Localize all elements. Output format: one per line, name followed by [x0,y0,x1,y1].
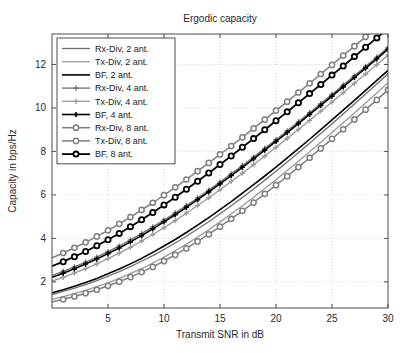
series-marker-circle [184,246,189,251]
y-tick-label: 4 [40,233,46,244]
series-marker-circle [72,245,77,250]
series-marker-circle [363,107,368,112]
series-marker-circle [318,82,323,87]
series-marker-circle [240,208,245,213]
series-marker-circle [273,118,278,123]
series-marker-circle [296,164,301,169]
series-marker-circle [128,224,133,229]
series-marker-circle [105,283,110,288]
legend-label: Rx-Div, 4 ant. [95,83,149,93]
series-marker-circle [240,145,245,150]
series-marker-circle [217,162,222,167]
series-marker-circle [161,193,166,198]
series-marker-circle [296,100,301,105]
series-marker-circle [117,279,122,284]
series-marker-circle [352,54,357,59]
series-marker-circle [83,240,88,245]
legend-label: Rx-Div, 2 ant. [95,44,149,54]
series-marker-circle [161,202,166,207]
x-tick-label: 5 [105,313,111,324]
series-marker-circle [173,195,178,200]
legend-label: Tx-Div, 2 ant. [95,57,148,67]
series-marker-circle [83,291,88,296]
series-marker-circle [318,146,323,151]
series-marker-circle [329,62,334,67]
series-marker-circle [273,108,278,113]
y-tick-label: 2 [40,276,46,287]
series-marker-circle [206,170,211,175]
series-marker-circle [329,136,334,141]
series-marker-circle [385,26,390,31]
series-marker-circle [117,221,122,226]
legend-label: BF, 2 ant. [95,70,133,80]
series-marker-circle [285,174,290,179]
series-marker-circle [229,143,234,148]
series-marker-circle [128,215,133,220]
series-marker-circle [217,224,222,229]
series-marker-circle [374,35,379,40]
x-tick-label: 15 [214,313,226,324]
series-marker-circle [329,73,334,78]
series-marker-circle [262,127,267,132]
series-marker-circle [229,216,234,221]
series-marker-circle [374,97,379,102]
legend-label: Tx-Div, 8 ant. [95,136,148,146]
series-marker-circle [240,135,245,140]
series-marker-circle [251,136,256,141]
series-marker-circle [139,207,144,212]
series-marker-circle [341,53,346,58]
series-marker-circle [173,252,178,257]
series-marker-circle [150,210,155,215]
legend-label: Tx-Div, 4 ant. [95,97,148,107]
x-tick-label: 20 [270,313,282,324]
legend-label: Rx-Div, 8 ant. [95,123,149,133]
series-marker-circle [352,44,357,49]
series-marker-circle [105,237,110,242]
series-marker-circle [94,243,99,248]
legend-marker-circle-icon [73,125,78,130]
series-marker-circle [83,249,88,254]
series-marker-circle [195,239,200,244]
legend-label: BF, 4 ant. [95,110,133,120]
series-marker-circle [341,63,346,68]
series-marker-circle [352,117,357,122]
series-marker-circle [285,109,290,114]
legend-label: BF, 8 ant. [95,149,133,159]
series-marker-circle [206,160,211,165]
series-marker-circle [72,254,77,259]
y-axis-label: Capacity in bps/Hz [7,129,18,212]
series-marker-circle [273,183,278,188]
chart-figure: 5101520253024681012Ergodic capacityTrans… [0,0,411,353]
x-tick-label: 30 [382,313,394,324]
series-marker-circle [363,45,368,50]
series-marker-circle [150,264,155,269]
series-marker-circle [195,179,200,184]
series-marker-circle [374,25,379,30]
series-marker-circle [94,287,99,292]
series-marker-circle [61,297,66,302]
series-marker-circle [195,169,200,174]
series-marker-circle [285,99,290,104]
x-tick-label: 10 [158,313,170,324]
series-marker-circle [184,187,189,192]
series-marker-circle [173,185,178,190]
series-marker-circle [251,200,256,205]
series-marker-circle [307,91,312,96]
series-marker-circle [385,15,390,20]
series-marker-circle [94,234,99,239]
series-marker-circle [262,191,267,196]
series-marker-circle [184,177,189,182]
ergodic-capacity-chart: 5101520253024681012Ergodic capacityTrans… [0,0,411,353]
series-marker-circle [117,231,122,236]
series-marker-circle [307,155,312,160]
series-marker-circle [251,126,256,131]
series-marker-circle [206,232,211,237]
series-marker-circle [363,34,368,39]
y-tick-label: 8 [40,146,46,157]
series-marker-circle [296,90,301,95]
series-marker-circle [139,270,144,275]
series-marker-circle [61,259,66,264]
series-marker-circle [61,250,66,255]
y-tick-label: 6 [40,189,46,200]
y-tick-label: 12 [35,59,47,70]
